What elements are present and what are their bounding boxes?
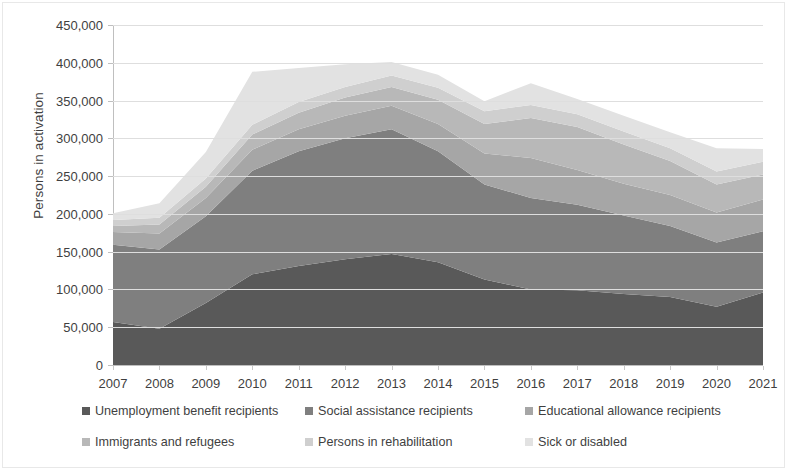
x-tick-label: 2021	[749, 376, 778, 391]
chart-legend: Unemployment benefit recipientsSocial as…	[60, 404, 760, 466]
x-tick-label: 2012	[331, 376, 360, 391]
x-tick-mark	[159, 366, 160, 370]
x-tick-label: 2017	[563, 376, 592, 391]
legend-item[interactable]: Unemployment benefit recipients	[82, 404, 278, 418]
x-tick-label: 2020	[702, 376, 731, 391]
x-tick-label: 2013	[377, 376, 406, 391]
legend-label: Immigrants and refugees	[95, 435, 234, 449]
y-axis-ticks: 050,000100,000150,000200,000250,000300,0…	[0, 0, 113, 471]
y-axis-title: Persons in activation	[31, 6, 46, 306]
legend-item[interactable]: Persons in rehabilitation	[305, 435, 452, 449]
y-tick-label: 50,000	[63, 320, 103, 335]
y-tick-label: 350,000	[56, 93, 103, 108]
x-tick-mark	[531, 366, 532, 370]
x-tick-label: 2007	[99, 376, 128, 391]
x-axis-ticks: 2007200820092010201120122013201420152016…	[113, 366, 763, 396]
x-tick-mark	[392, 366, 393, 370]
legend-swatch-icon	[305, 438, 313, 446]
legend-swatch-icon	[525, 438, 533, 446]
legend-label: Unemployment benefit recipients	[95, 404, 278, 418]
x-tick-label: 2008	[145, 376, 174, 391]
x-tick-label: 2015	[470, 376, 499, 391]
y-tick-label: 300,000	[56, 131, 103, 146]
y-tick-label: 100,000	[56, 282, 103, 297]
y-tick-label: 400,000	[56, 55, 103, 70]
legend-swatch-icon	[82, 407, 90, 415]
x-tick-mark	[670, 366, 671, 370]
x-tick-mark	[763, 366, 764, 370]
legend-label: Persons in rehabilitation	[318, 435, 452, 449]
stacked-area-plot	[113, 25, 763, 365]
legend-label: Social assistance recipients	[318, 404, 473, 418]
plot-area	[113, 25, 763, 365]
x-tick-mark	[438, 366, 439, 370]
x-tick-mark	[717, 366, 718, 370]
y-tick-label: 200,000	[56, 206, 103, 221]
x-tick-mark	[577, 366, 578, 370]
x-tick-mark	[624, 366, 625, 370]
y-tick-label: 450,000	[56, 18, 103, 33]
chart-container: Persons in activation 050,000100,000150,…	[0, 0, 788, 471]
legend-item[interactable]: Sick or disabled	[525, 435, 627, 449]
x-tick-label: 2018	[609, 376, 638, 391]
legend-swatch-icon	[305, 407, 313, 415]
x-tick-label: 2016	[516, 376, 545, 391]
legend-item[interactable]: Social assistance recipients	[305, 404, 473, 418]
legend-swatch-icon	[525, 407, 533, 415]
x-tick-label: 2014	[424, 376, 453, 391]
legend-swatch-icon	[82, 438, 90, 446]
x-tick-label: 2009	[191, 376, 220, 391]
legend-label: Sick or disabled	[538, 435, 627, 449]
y-tick-label: 250,000	[56, 169, 103, 184]
x-tick-label: 2019	[656, 376, 685, 391]
x-tick-mark	[206, 366, 207, 370]
x-tick-label: 2010	[238, 376, 267, 391]
y-tick-label: 0	[96, 358, 103, 373]
x-tick-label: 2011	[285, 376, 313, 391]
legend-label: Educational allowance recipients	[538, 404, 721, 418]
x-tick-mark	[113, 366, 114, 370]
y-tick-label: 150,000	[56, 244, 103, 259]
x-tick-mark	[299, 366, 300, 370]
x-tick-mark	[252, 366, 253, 370]
legend-item[interactable]: Educational allowance recipients	[525, 404, 721, 418]
legend-item[interactable]: Immigrants and refugees	[82, 435, 234, 449]
x-tick-mark	[484, 366, 485, 370]
x-tick-mark	[345, 366, 346, 370]
